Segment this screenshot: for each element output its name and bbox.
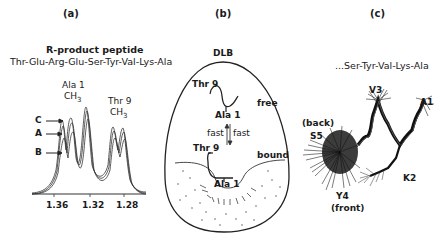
residue-v3-label: V3 (369, 85, 382, 95)
fast-left-label: fast (207, 128, 224, 138)
bound-peptide (208, 153, 233, 178)
panel-b-label: (b) (215, 8, 231, 19)
bound-thr9-label: Thr 9 (193, 143, 219, 153)
free-ala1-label: Ala 1 (215, 110, 241, 120)
bound-ala1-label: Ala 1 (214, 179, 240, 189)
residue-y4-label: Y4 (336, 191, 349, 201)
free-state-label: free (257, 98, 278, 108)
bound-state-label: bound (257, 150, 289, 160)
panel-c-label: (c) (370, 8, 385, 19)
dlb-label: DLB (213, 48, 233, 58)
residue-k2-label: K2 (403, 173, 416, 183)
front-label: (front) (331, 203, 364, 213)
equilibrium-arrows (225, 124, 232, 145)
residue-a1-label: A1 (420, 97, 433, 107)
residue-s5-label: S5 (310, 131, 323, 141)
back-label: (back) (302, 118, 334, 128)
free-thr9-label: Thr 9 (192, 79, 218, 89)
fast-right-label: fast (233, 128, 250, 138)
dlb-oval (165, 62, 289, 232)
figure-graphics (0, 0, 448, 240)
structure-sequence: ...Ser-Tyr-Val-Lys-Ala (335, 60, 429, 71)
